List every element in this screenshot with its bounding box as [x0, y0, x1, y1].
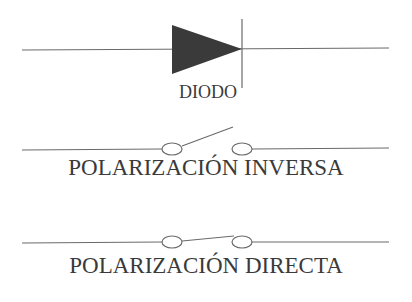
reverse-bias-switch — [22, 127, 389, 155]
switch-wire-left — [22, 149, 162, 150]
forward-bias-label: POLARIZACIÓN DIRECTA — [0, 253, 412, 279]
switch-wire-left — [22, 242, 162, 243]
switch-terminal-right — [232, 143, 252, 155]
reverse-bias-label: POLARIZACIÓN INVERSA — [0, 155, 412, 181]
diode-label: DIODO — [2, 82, 412, 103]
diode-anode-triangle — [172, 25, 242, 74]
forward-bias-switch — [22, 236, 389, 248]
switch-lever-closed — [182, 236, 234, 241]
switch-terminal-left — [162, 236, 182, 248]
switch-terminal-left — [162, 143, 182, 155]
switch-wire-right — [252, 148, 389, 149]
switch-lever-open — [182, 127, 233, 146]
diode-symbol — [22, 19, 389, 88]
switch-terminal-right — [232, 236, 252, 248]
